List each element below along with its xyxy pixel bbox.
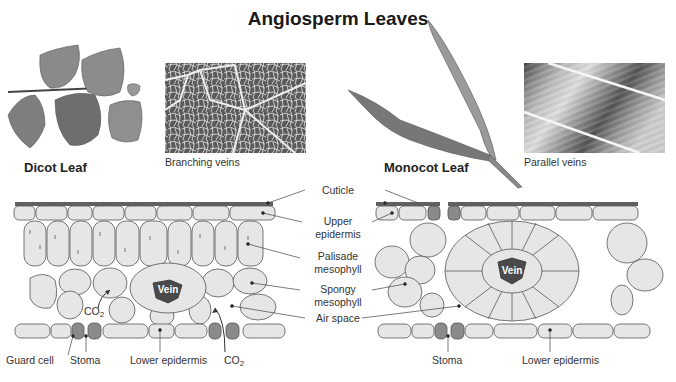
co2-label-lower: CO2 bbox=[224, 354, 244, 370]
spongy-mesophyll-label: Spongy mesophyll bbox=[300, 283, 376, 309]
co2-lower-text: CO bbox=[224, 354, 240, 366]
co2-label-upper: CO2 bbox=[84, 305, 104, 321]
guard-cell-label: Guard cell bbox=[6, 354, 54, 367]
dicot-leaf-image bbox=[8, 45, 142, 148]
palisade-label-line2: mesophyll bbox=[314, 263, 361, 275]
dicot-lower-epidermis-label: Lower epidermis bbox=[130, 354, 207, 367]
upper-epidermis bbox=[14, 206, 275, 220]
co2-upper-text: CO bbox=[84, 305, 100, 317]
upper-epidermis-label-line2: epidermis bbox=[315, 228, 361, 240]
co2-lower-subscript: 2 bbox=[240, 359, 244, 368]
monocot-stoma-label: Stoma bbox=[432, 354, 462, 367]
cuticle bbox=[15, 202, 273, 206]
air-space-label: Air space bbox=[300, 312, 376, 325]
dicot-stoma-label: Stoma bbox=[70, 354, 100, 367]
dicot-cross-section bbox=[14, 202, 285, 339]
upper-epidermis-label-line1: Upper bbox=[324, 215, 353, 227]
co2-upper-subscript: 2 bbox=[100, 310, 104, 319]
cuticle-label: Cuticle bbox=[306, 184, 370, 197]
parallel-veins-image bbox=[524, 63, 665, 153]
upper-epidermis-label: Upper epidermis bbox=[300, 215, 376, 241]
spongy-label-line1: Spongy bbox=[320, 283, 356, 295]
monocot-upper-epidermis bbox=[376, 206, 638, 220]
palisade-mesophyll-label: Palisade mesophyll bbox=[300, 250, 376, 276]
branching-veins-image bbox=[165, 63, 306, 153]
parallel-veins-caption: Parallel veins bbox=[524, 156, 586, 168]
monocot-lower-epidermis-label: Lower epidermis bbox=[522, 354, 599, 367]
dicot-leaf-label: Dicot Leaf bbox=[24, 160, 87, 175]
lower-epidermis bbox=[15, 324, 285, 338]
dicot-vein-label: Vein bbox=[151, 283, 185, 296]
spongy-label-line2: mesophyll bbox=[314, 296, 361, 308]
monocot-leaf-label: Monocot Leaf bbox=[384, 160, 469, 175]
branching-veins-caption: Branching veins bbox=[165, 156, 240, 168]
monocot-lower-epidermis bbox=[378, 323, 650, 339]
monocot-vein-label: Vein bbox=[495, 264, 529, 277]
palisade-mesophyll bbox=[24, 221, 263, 266]
palisade-label-line1: Palisade bbox=[318, 250, 358, 262]
